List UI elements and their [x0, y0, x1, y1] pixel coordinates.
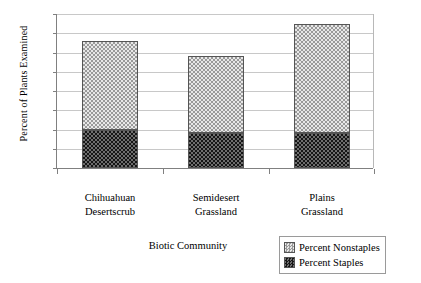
bar-segment-nonstaples	[294, 24, 350, 134]
x-axis-tick-label-line: Desertscrub	[50, 205, 170, 219]
legend-item-nonstaples: Percent Nonstaples	[284, 240, 380, 255]
legend-swatch-nonstaples-icon	[284, 242, 295, 253]
plot-area: 0%5%10%15%20%25%30%35%40%ChihuahuanDeser…	[56, 14, 374, 168]
x-axis-tick-label-line: Grassland	[262, 205, 382, 219]
x-axis-tick-label-line: Plains	[262, 191, 382, 205]
y-axis-tick-mark	[53, 53, 57, 54]
bar-segment-staples	[294, 133, 350, 168]
bar-segment-nonstaples	[188, 56, 244, 133]
bar-group	[188, 14, 244, 168]
x-axis-tick-label-line: Chihuahuan	[50, 191, 170, 205]
y-axis-title: Percent of Plants Examined	[18, 0, 29, 169]
legend-label-staples: Percent Staples	[299, 257, 363, 268]
bar-segment-nonstaples	[82, 41, 138, 130]
x-axis-tick-mark	[163, 169, 164, 174]
chart-legend: Percent Nonstaples Percent Staples	[279, 236, 386, 274]
legend-label-nonstaples: Percent Nonstaples	[299, 242, 380, 253]
legend-swatch-staples-icon	[284, 257, 295, 268]
y-axis-tick-mark	[53, 33, 57, 34]
y-axis-tick-mark	[53, 91, 57, 92]
x-axis-tick-mark	[374, 169, 375, 174]
legend-item-staples: Percent Staples	[284, 255, 380, 270]
gridline	[57, 168, 373, 169]
bar-group	[82, 14, 138, 168]
y-axis-tick-mark	[53, 110, 57, 111]
bar-segment-staples	[82, 130, 138, 169]
bar-segment-staples	[188, 133, 244, 168]
y-axis-tick-mark	[53, 149, 57, 150]
x-axis-tick-label-line: Grassland	[156, 205, 276, 219]
x-axis-tick-label: ChihuahuanDesertscrub	[50, 191, 170, 219]
bar-group	[294, 14, 350, 168]
x-axis-tick-label-line: Semidesert	[156, 191, 276, 205]
x-axis-tick-label: PlainsGrassland	[262, 191, 382, 219]
y-axis-tick-mark	[53, 14, 57, 15]
x-axis-title: Biotic Community	[108, 240, 268, 251]
x-axis-tick-mark	[57, 169, 58, 174]
x-axis-tick-label: SemidesertGrassland	[156, 191, 276, 219]
y-axis-tick-mark	[53, 72, 57, 73]
x-axis-tick-mark	[269, 169, 270, 174]
y-axis-tick-mark	[53, 130, 57, 131]
